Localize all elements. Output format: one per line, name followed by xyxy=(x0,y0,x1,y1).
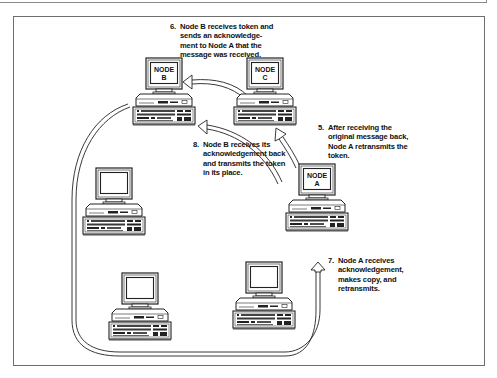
step-6-note: 6. Node B receives token and sends an ac… xyxy=(170,22,273,60)
svg-text:A: A xyxy=(314,180,319,187)
ring-arrowhead xyxy=(311,262,325,272)
unlabeled-computer-2 xyxy=(109,273,171,340)
svg-text:B: B xyxy=(161,74,166,81)
svg-text:NODE: NODE xyxy=(307,172,328,179)
svg-text:C: C xyxy=(262,74,267,81)
svg-text:NODE: NODE xyxy=(255,66,276,73)
node-a-computer: NODE A xyxy=(286,164,348,231)
step-7-note: 7. Node A receives acknowledgement, make… xyxy=(328,256,404,294)
node-b-computer: NODE B xyxy=(133,58,195,125)
step-8-note: 8. Node B receives its acknowledgement b… xyxy=(193,140,285,178)
step-5-note: 5. After receiving the original message … xyxy=(318,123,408,161)
unlabeled-computer-3 xyxy=(233,262,295,329)
svg-text:NODE: NODE xyxy=(154,66,175,73)
unlabeled-computer-1 xyxy=(83,168,145,235)
